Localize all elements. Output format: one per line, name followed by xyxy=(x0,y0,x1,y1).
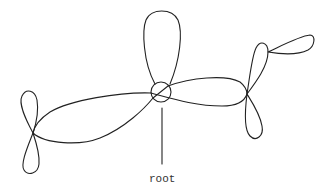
knot-diagram xyxy=(0,0,327,195)
right-lobe-lower xyxy=(151,93,247,106)
left-lower-petal xyxy=(23,133,39,173)
far-right-petal xyxy=(268,35,314,54)
right-lobe-upper xyxy=(168,78,247,94)
root-strand xyxy=(153,86,168,98)
right-lower-petal xyxy=(245,94,262,138)
top-loop xyxy=(144,11,180,84)
root-label: root xyxy=(149,173,175,185)
left-lobe-lower xyxy=(33,98,153,143)
left-lobe-upper xyxy=(33,93,151,133)
right-upper-petal xyxy=(247,43,268,94)
left-upper-petal xyxy=(21,91,38,133)
